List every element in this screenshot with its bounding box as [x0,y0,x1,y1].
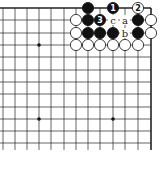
white-stone [145,14,156,25]
white-stone [82,39,93,50]
white-stone [70,14,81,25]
white-stone [119,39,130,50]
white-stone [94,39,105,50]
move-number: 1 [110,4,116,13]
black-stone [132,14,143,25]
point-label-a: a [122,15,128,26]
black-stone [82,27,93,38]
white-stone [70,27,81,38]
point-label-b: b [122,28,128,39]
black-stone [132,27,143,38]
white-stone [132,39,143,50]
white-stone [70,39,81,50]
point-label-c: c [110,15,116,26]
black-stone [82,2,93,13]
move-number: 2 [135,4,141,13]
black-stone [107,27,118,38]
black-stone [94,27,105,38]
black-stone [82,14,93,25]
move-number: 3 [97,16,103,25]
white-stone [107,39,118,50]
hoshi-point [37,43,41,47]
go-board-diagram: cab123 [0,0,166,170]
hoshi-point [111,117,115,121]
hoshi-point [37,117,41,121]
white-stone [145,27,156,38]
